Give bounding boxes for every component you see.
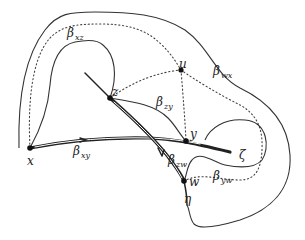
point-x: [27, 145, 33, 151]
point-y: [183, 138, 189, 144]
outer-curve-beta-wx: [19, 12, 290, 227]
label-beta-zw: β zw: [167, 153, 187, 169]
svg-text:xy: xy: [81, 151, 91, 160]
svg-text:zw: zw: [175, 160, 187, 169]
label-eta: η: [184, 192, 192, 206]
line-eta-start: [85, 73, 110, 98]
dotted-u-to-z: [110, 70, 181, 98]
svg-text:β: β: [72, 144, 80, 158]
svg-text:β: β: [167, 153, 175, 167]
svg-text:yw: yw: [220, 176, 233, 185]
svg-text:β: β: [155, 95, 163, 109]
label-w: w: [189, 175, 200, 189]
label-zeta: ζ: [239, 148, 247, 162]
svg-text:β: β: [66, 26, 74, 40]
label-x: x: [27, 154, 34, 168]
curve-diagram: x z u y w β xz β wx β zy β xy β zw β yw …: [0, 0, 305, 240]
label-beta-xy: β xy: [72, 144, 91, 160]
label-z: z: [111, 85, 119, 99]
label-beta-wx: β wx: [212, 64, 233, 80]
svg-text:zy: zy: [163, 102, 173, 111]
dotted-u-to-y: [181, 70, 186, 141]
label-beta-yw: β yw: [212, 169, 233, 185]
svg-text:xz: xz: [75, 33, 85, 42]
line-beta-xy-outer: [30, 138, 230, 152]
svg-text:β: β: [212, 64, 220, 78]
svg-text:wx: wx: [221, 71, 233, 80]
inner-curve-beta-xz: [30, 40, 114, 148]
label-beta-xz: β xz: [66, 26, 85, 42]
svg-text:β: β: [212, 169, 220, 183]
label-y: y: [189, 127, 197, 141]
label-beta-zy: β zy: [155, 95, 173, 111]
point-w: [181, 178, 187, 184]
label-u: u: [179, 57, 187, 71]
